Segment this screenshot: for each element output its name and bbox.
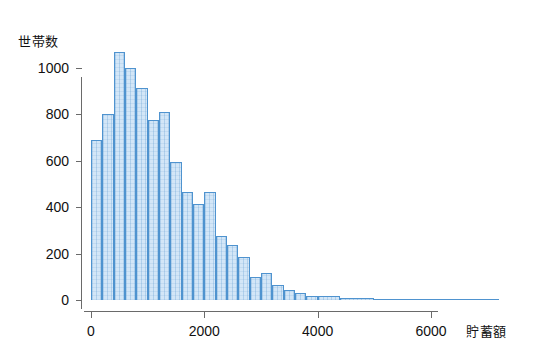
y-tick-label: 600	[23, 154, 69, 168]
bars-layer	[0, 0, 547, 359]
histogram-bar	[170, 162, 181, 300]
histogram-bar	[318, 296, 341, 300]
histogram-bar	[250, 277, 261, 300]
histogram-bar	[272, 285, 283, 300]
plot-area: 020040060080010000200040006000	[0, 0, 547, 359]
y-tick-label: 0	[23, 293, 69, 307]
histogram-bar	[114, 52, 125, 300]
x-tick-mark	[431, 312, 432, 318]
histogram-bar	[374, 299, 499, 300]
x-tick-mark	[91, 312, 92, 318]
y-tick-mark	[76, 114, 82, 115]
x-axis-line	[84, 311, 438, 312]
histogram-bar	[125, 68, 136, 300]
histogram-bar	[204, 192, 215, 300]
y-axis-line	[81, 77, 82, 309]
x-tick-label: 4000	[288, 324, 348, 338]
histogram-bar	[340, 298, 374, 300]
x-tick-label: 2000	[174, 324, 234, 338]
x-tick-mark	[318, 312, 319, 318]
histogram-bar	[148, 120, 159, 300]
y-tick-mark	[76, 161, 82, 162]
histogram-bar	[295, 293, 306, 300]
y-tick-mark	[76, 68, 82, 69]
histogram-bar	[182, 192, 193, 300]
histogram-bar	[159, 112, 170, 300]
y-tick-label: 200	[23, 247, 69, 261]
y-tick-mark	[76, 207, 82, 208]
x-tick-label: 6000	[401, 324, 461, 338]
y-tick-label: 800	[23, 107, 69, 121]
histogram-bar	[306, 296, 317, 300]
histogram-bar	[216, 236, 227, 300]
histogram-bar	[91, 140, 102, 300]
x-tick-label: 0	[61, 324, 121, 338]
histogram-bar	[193, 204, 204, 300]
y-tick-label: 1000	[23, 61, 69, 75]
x-tick-mark	[204, 312, 205, 318]
y-tick-mark	[76, 254, 82, 255]
histogram-bar	[284, 290, 295, 300]
histogram-bar	[102, 114, 113, 300]
histogram-bar	[227, 245, 238, 300]
histogram-bar	[136, 88, 147, 300]
histogram-figure: 世帯数 貯蓄額 020040060080010000200040006000	[0, 0, 547, 359]
histogram-bar	[261, 273, 272, 300]
histogram-bar	[238, 257, 249, 300]
y-tick-mark	[76, 300, 82, 301]
y-tick-label: 400	[23, 200, 69, 214]
